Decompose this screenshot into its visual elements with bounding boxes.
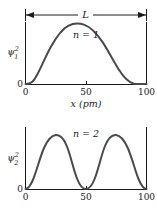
y-axis-label-n2: ψ22 (7, 151, 19, 167)
probability-density-figure: L ψ21 0 n = 1 0 50 1 (0, 0, 157, 212)
x-tick-label-100-n1: 100 (138, 87, 155, 97)
x-tick-label-50-n2: 50 (80, 192, 92, 202)
x-tick-label-0-n1: 0 (23, 87, 29, 97)
state-label-n1: n = 1 (73, 29, 99, 40)
curve-n2 (26, 135, 147, 189)
x-tick-label-50-n1: 50 (80, 87, 92, 97)
x-tick-label-100-n2: 100 (138, 192, 155, 202)
x-tick-label-0-n2: 0 (23, 192, 29, 202)
chart-n1: L ψ21 0 n = 1 0 50 1 (0, 0, 157, 110)
x-axis-label-n1: x(pm) (71, 98, 102, 109)
dimension-label-L: L (81, 9, 89, 20)
dimension-arrow-L: L (26, 7, 147, 22)
panel-n2: ψ22 0 n = 2 0 50 100 (0, 112, 157, 212)
y-axis-label-n1: ψ21 (7, 45, 19, 61)
panel-n1: L ψ21 0 n = 1 0 50 1 (0, 0, 157, 110)
chart-n2: ψ22 0 n = 2 0 50 100 (0, 112, 157, 212)
state-label-n2: n = 2 (73, 128, 99, 139)
